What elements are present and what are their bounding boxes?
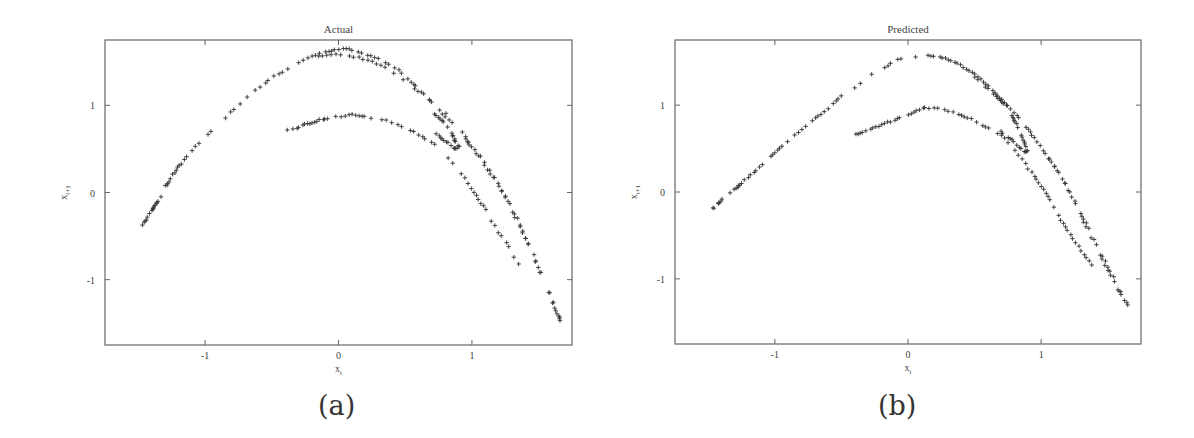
scatter-points xyxy=(711,53,1130,307)
y-axis-label: xt+1 xyxy=(58,185,72,200)
y-tick-label: -1 xyxy=(87,275,95,286)
y-tick-label: 1 xyxy=(660,100,665,111)
caption-b: (b) xyxy=(878,390,916,421)
y-tick-label: 0 xyxy=(90,188,95,199)
x-tick-label: -1 xyxy=(201,350,209,361)
x-axis-label: xt xyxy=(335,363,342,377)
plot-title: Predicted xyxy=(887,23,929,35)
x-tick-label: 0 xyxy=(336,350,341,361)
x-tick-label: 1 xyxy=(469,350,474,361)
caption-a: (a) xyxy=(318,390,355,421)
y-tick-label: 0 xyxy=(660,187,665,198)
x-tick-label: 1 xyxy=(1039,349,1044,360)
y-axis-label: xt+1 xyxy=(628,184,642,199)
y-tick-label: 1 xyxy=(90,100,95,111)
x-axis-label: xt xyxy=(905,362,912,376)
scatter-points xyxy=(140,46,562,322)
x-tick-label: -1 xyxy=(771,349,779,360)
plot-actual: Actual-101-101xtxt+1 xyxy=(0,0,597,438)
y-tick-label: -1 xyxy=(657,274,665,285)
plot-predicted: Predicted-101-101xtxt+1 xyxy=(597,0,1194,438)
x-tick-label: 0 xyxy=(906,349,911,360)
plot-title: Actual xyxy=(324,23,353,35)
